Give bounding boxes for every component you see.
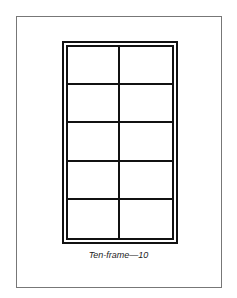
ten-frame-cell bbox=[120, 85, 172, 123]
ten-frame-grid bbox=[66, 45, 174, 240]
ten-frame-cell bbox=[120, 162, 172, 200]
ten-frame-cell bbox=[120, 47, 172, 85]
ten-frame-cell bbox=[68, 200, 120, 238]
ten-frame-cell bbox=[68, 47, 120, 85]
ten-frame-cell bbox=[120, 123, 172, 161]
ten-frame-cell bbox=[68, 162, 120, 200]
ten-frame-cell bbox=[120, 200, 172, 238]
ten-frame-cell bbox=[68, 123, 120, 161]
ten-frame-cell bbox=[68, 85, 120, 123]
caption: Ten-frame—10 bbox=[0, 250, 237, 260]
